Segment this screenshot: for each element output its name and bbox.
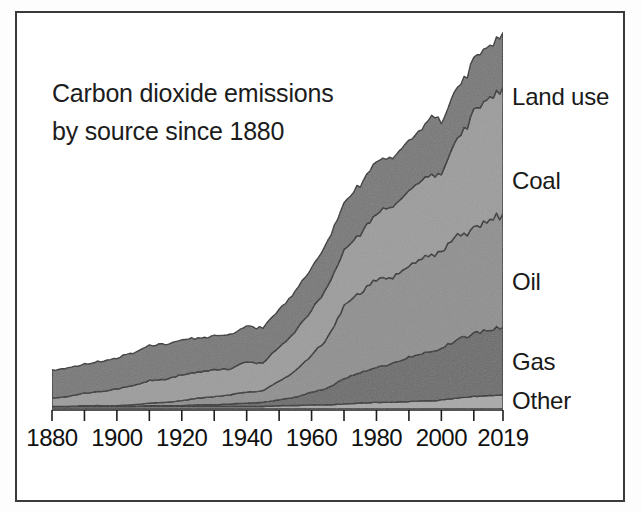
series-label-oil: Oil <box>512 268 541 296</box>
series-label-gas: Gas <box>512 348 555 376</box>
chart-title-line-1: Carbon dioxide emissions <box>52 79 333 108</box>
x-axis-tick-label-1880: 1880 <box>17 424 87 452</box>
x-axis <box>52 410 503 421</box>
series-label-coal: Coal <box>512 167 561 195</box>
series-label-other: Other <box>512 387 571 415</box>
x-axis-tick-label-1920: 1920 <box>147 424 217 452</box>
x-axis-tick-label-1900: 1900 <box>82 424 152 452</box>
chart-title-line-2: by source since 1880 <box>52 117 284 146</box>
x-axis-tick-label-2000: 2000 <box>406 424 476 452</box>
x-axis-tick-label-1980: 1980 <box>341 424 411 452</box>
x-axis-tick-label-1940: 1940 <box>212 424 282 452</box>
series-label-land-use: Land use <box>512 83 609 111</box>
x-axis-tick-label-1960: 1960 <box>277 424 347 452</box>
x-axis-tick-label-2019: 2019 <box>468 424 538 452</box>
figure-container: Carbon dioxide emissions by source since… <box>0 0 642 513</box>
